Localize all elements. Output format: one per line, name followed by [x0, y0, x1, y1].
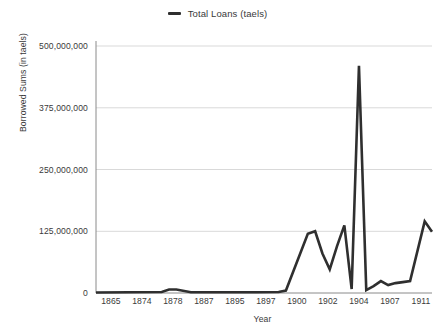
line-chart: Total Loans (taels) Borrowed Sums (in ta…: [0, 0, 435, 336]
series-line-total-loans: [96, 66, 432, 293]
plot-area: [0, 0, 435, 336]
gridlines: [96, 46, 432, 231]
